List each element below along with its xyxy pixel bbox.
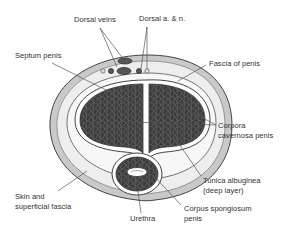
superficial-dorsal-vein (118, 58, 132, 64)
label-corpora-cavernosa: cavernosa penis (218, 131, 274, 140)
label-urethra: Urethra (130, 214, 156, 223)
penis-cross-section-diagram: Dorsal veinsDorsal a. & n.Septum penisFa… (0, 0, 296, 233)
label-dorsal-artery-nerve: Dorsal a. & n. (139, 14, 185, 23)
diagram-canvas: Dorsal veinsDorsal a. & n.Septum penisFa… (0, 0, 296, 233)
dorsal-artery-right (136, 68, 141, 73)
label-fascia-of-penis: Fascia of penis (209, 59, 260, 68)
deep-dorsal-vein (117, 68, 131, 75)
dorsal-artery-left (108, 68, 113, 73)
dorsal-nerve-left (101, 69, 105, 73)
label-corpus-spongiosum: penis (184, 214, 202, 223)
label-skin-superficial-fascia: Skin and (15, 192, 45, 201)
label-corpora-cavernosa: Corpora (218, 121, 246, 130)
label-tunica-albuginea: (deep layer) (203, 186, 244, 195)
label-corpus-spongiosum: Corpus spongiosum (184, 204, 252, 213)
dorsal-nerve-right (145, 69, 149, 73)
label-tunica-albuginea: Tunica albuginea (203, 176, 261, 185)
label-septum-penis: Septum penis (15, 51, 62, 60)
urethra (127, 168, 147, 177)
label-skin-superficial-fascia: superficial fascia (15, 202, 72, 211)
label-dorsal-veins: Dorsal veins (74, 15, 116, 24)
